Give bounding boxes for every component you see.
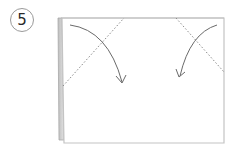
paper-sheet [62,18,224,143]
fold-diagram [0,0,244,153]
